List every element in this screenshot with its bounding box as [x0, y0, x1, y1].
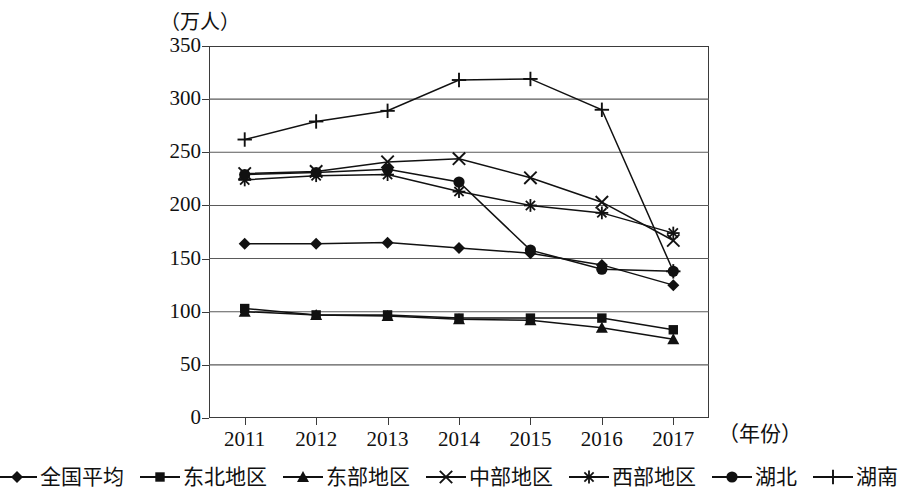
x-axis-tick-label: 2015 [509, 429, 551, 450]
data-point-circle [239, 169, 250, 180]
data-point-square [669, 325, 678, 334]
y-axis-tick-mark [202, 259, 209, 260]
legend-item-5[interactable]: 湖北 [710, 466, 811, 488]
y-axis-tick-label: 150 [141, 248, 201, 269]
data-point-circle [453, 176, 464, 187]
legend-item-0[interactable]: 全国平均 [0, 466, 138, 488]
data-point-circle [726, 471, 737, 482]
y-axis-tick-label: 50 [141, 354, 201, 375]
legend-swatch-triangle-icon [281, 466, 325, 488]
data-point-circle [382, 164, 393, 175]
y-axis-tick-mark [202, 46, 209, 47]
data-point-plus [380, 104, 394, 118]
x-axis-tick-mark [245, 418, 246, 425]
legend-label: 湖北 [755, 467, 797, 488]
y-axis-tick-mark [202, 205, 209, 206]
y-axis-tick-label: 350 [141, 35, 201, 56]
data-point-diamond [310, 238, 322, 250]
data-point-diamond [239, 238, 251, 250]
series-line-3 [245, 159, 674, 241]
data-point-plus [666, 264, 680, 278]
legend-item-6[interactable]: 湖南 [811, 466, 906, 488]
y-axis-tick-label: 300 [141, 88, 201, 109]
x-axis-tick-label: 2016 [581, 429, 623, 450]
data-point-circle [311, 167, 322, 178]
legend-swatch-square-icon [138, 466, 182, 488]
x-axis-tick-mark [316, 418, 317, 425]
legend-swatch-circle-icon [710, 466, 754, 488]
legend-item-3[interactable]: 中部地区 [424, 466, 567, 488]
x-axis-tick-mark [602, 418, 603, 425]
x-axis-tick-label: 2013 [367, 429, 409, 450]
data-point-diamond [453, 242, 465, 254]
data-point-plus [309, 114, 323, 128]
y-axis-tick-label: 0 [141, 407, 201, 428]
data-point-asterisk [524, 199, 537, 212]
data-point-asterisk [667, 227, 680, 240]
data-point-plus [595, 103, 609, 117]
y-axis-tick-mark [202, 418, 209, 419]
legend-label: 全国平均 [40, 467, 124, 488]
chart-figure: （万人） 05010015020025030035020112012201320… [0, 0, 906, 492]
legend-item-4[interactable]: 西部地区 [567, 466, 710, 488]
data-point-circle [525, 244, 536, 255]
data-point-asterisk [595, 206, 608, 219]
y-axis-tick-mark [202, 365, 209, 366]
x-axis-tick-mark [459, 418, 460, 425]
legend-label: 中部地区 [469, 467, 553, 488]
legend-label: 湖南 [856, 467, 898, 488]
x-axis-unit-label: （年份） [718, 424, 802, 445]
data-point-circle [596, 264, 607, 275]
x-axis-tick-label: 2011 [224, 429, 265, 450]
legend-swatch-diamond-icon [0, 466, 39, 488]
data-point-plus [238, 132, 252, 146]
y-axis-tick-label: 100 [141, 301, 201, 322]
data-point-plus [825, 470, 839, 484]
data-point-square [597, 313, 606, 322]
legend-swatch-cross-icon [424, 466, 468, 488]
legend-item-2[interactable]: 东部地区 [281, 466, 424, 488]
data-point-cross [524, 172, 536, 184]
legend-label: 东北地区 [183, 467, 267, 488]
data-point-plus [452, 73, 466, 87]
data-point-diamond [11, 471, 23, 483]
plot-area: 0501001502002503003502011201220132014201… [209, 46, 709, 418]
y-axis-tick-label: 250 [141, 141, 201, 162]
data-point-plus [523, 72, 537, 86]
data-point-square [155, 472, 164, 481]
x-axis-tick-mark [673, 418, 674, 425]
y-axis-tick-mark [202, 152, 209, 153]
x-axis-tick-label: 2012 [295, 429, 337, 450]
legend-item-1[interactable]: 东北地区 [138, 466, 281, 488]
legend-swatch-asterisk-icon [567, 466, 611, 488]
y-axis-unit-label: （万人） [160, 6, 240, 35]
x-axis-tick-mark [530, 418, 531, 425]
legend-label: 东部地区 [326, 467, 410, 488]
data-point-diamond [382, 237, 394, 249]
legend-swatch-plus-icon [811, 466, 855, 488]
data-point-diamond [667, 279, 679, 291]
y-axis-tick-mark [202, 99, 209, 100]
data-point-asterisk [582, 471, 595, 484]
x-axis-tick-label: 2014 [438, 429, 480, 450]
chart-legend: 全国平均东北地区东部地区中部地区西部地区湖北湖南 [0, 462, 906, 492]
x-axis-tick-label: 2017 [652, 429, 694, 450]
y-axis-tick-mark [202, 312, 209, 313]
x-axis-tick-mark [388, 418, 389, 425]
legend-label: 西部地区 [612, 467, 696, 488]
series-canvas [209, 46, 709, 418]
y-axis-tick-label: 200 [141, 194, 201, 215]
